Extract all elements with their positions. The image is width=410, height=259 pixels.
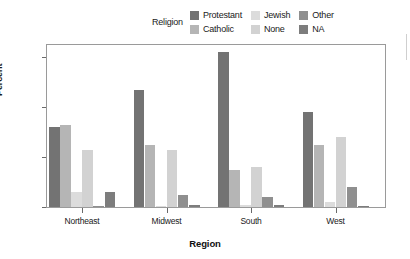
y-tick-mark [42, 57, 46, 58]
x-tick-mark [167, 208, 168, 213]
legend-item-label: Protestant [203, 10, 242, 20]
bar[interactable] [303, 112, 314, 207]
legend-item-label: NA [312, 24, 324, 34]
y-tick-mark [42, 157, 46, 158]
legend-swatch-icon [190, 11, 199, 20]
legend-item-label: None [264, 24, 285, 34]
legend-swatch-icon [299, 11, 308, 20]
bar[interactable] [325, 202, 336, 207]
bar[interactable] [218, 52, 229, 207]
legend-item-label: Catholic [203, 24, 234, 34]
legend-swatch-icon [251, 25, 260, 34]
legend-item-na[interactable]: NA [299, 24, 334, 34]
bar[interactable] [262, 197, 273, 207]
bar[interactable] [49, 127, 60, 207]
legend-item-label: Jewish [264, 10, 290, 20]
x-tick-mark [82, 208, 83, 213]
legend-item-jewish[interactable]: Jewish [251, 10, 290, 20]
y-axis-label: Percent [0, 64, 4, 96]
bar[interactable] [274, 205, 285, 207]
bar[interactable] [336, 137, 347, 207]
legend-item-other[interactable]: Other [299, 10, 334, 20]
legend-title: Religion [152, 10, 183, 28]
y-tick-mark [42, 207, 46, 208]
x-axis-label: Region [0, 238, 410, 249]
plot-area [47, 45, 385, 207]
chart-root: Religion Protestant Jewish Other Catholi… [0, 0, 410, 259]
bar[interactable] [134, 90, 145, 207]
bar[interactable] [189, 205, 200, 207]
bar[interactable] [60, 125, 71, 207]
bar[interactable] [314, 145, 325, 207]
bar[interactable] [82, 150, 93, 207]
x-tick-label: Northeast [64, 216, 99, 226]
x-tick-label: West [326, 216, 344, 226]
bar[interactable] [156, 206, 167, 207]
x-tick-mark [336, 208, 337, 213]
bar[interactable] [145, 145, 156, 207]
bar[interactable] [251, 167, 262, 207]
bar[interactable] [93, 206, 104, 207]
bar[interactable] [71, 192, 82, 207]
legend-items: Protestant Jewish Other Catholic None NA [190, 10, 334, 34]
legend-swatch-icon [251, 11, 260, 20]
bar[interactable] [240, 205, 251, 207]
x-tick-mark [251, 208, 252, 213]
bar[interactable] [229, 170, 240, 207]
legend: Religion Protestant Jewish Other Catholi… [152, 10, 334, 34]
legend-item-none[interactable]: None [251, 24, 290, 34]
legend-item-label: Other [312, 10, 334, 20]
x-tick-label: Midwest [152, 216, 182, 226]
bar[interactable] [167, 150, 178, 207]
bar[interactable] [178, 195, 189, 207]
legend-swatch-icon [190, 25, 199, 34]
bar[interactable] [105, 192, 116, 207]
bar[interactable] [358, 206, 369, 207]
x-tick-label: South [240, 216, 261, 226]
y-tick-mark [42, 107, 46, 108]
edge-artifact [406, 34, 407, 60]
legend-item-catholic[interactable]: Catholic [190, 24, 242, 34]
legend-item-protestant[interactable]: Protestant [190, 10, 242, 20]
bar[interactable] [347, 187, 358, 207]
legend-swatch-icon [299, 25, 308, 34]
